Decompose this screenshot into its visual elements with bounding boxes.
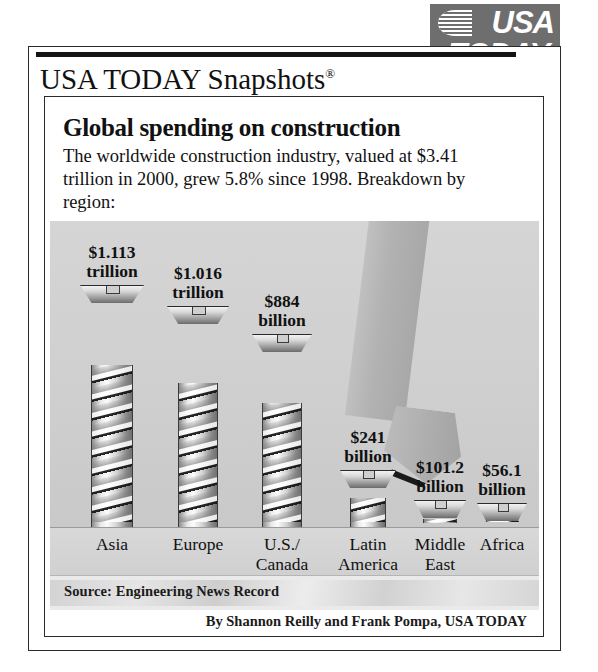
category-label: Asia: [65, 534, 159, 554]
screw-shank: [486, 521, 519, 522]
screw-threads: [424, 519, 456, 522]
category-axis: AsiaEuropeU.S./CanadaLatinAmericaMiddleE…: [50, 527, 539, 576]
snapshots-title-text: USA TODAY Snapshots: [40, 63, 325, 95]
chart-headline: Global spending on construction: [63, 113, 503, 142]
screw-icon: [80, 285, 144, 521]
screw-slot: [435, 501, 446, 509]
screw-icon: [167, 306, 229, 521]
source-band: Source: Engineering News Record: [50, 575, 539, 610]
screw-head: [340, 470, 396, 488]
screw-shank: [178, 383, 218, 527]
category-label: Africa: [462, 534, 542, 554]
screw-shank: [91, 365, 133, 527]
screw-shank: [262, 403, 301, 527]
snapshot-infographic: USA TODAY. USA TODAY Snapshots® Global s…: [0, 0, 598, 672]
category-label: U.S./Canada: [237, 534, 327, 574]
category-label: Europe: [152, 534, 244, 554]
plot-area: $1.113trillion$1.016trillion$884billion$…: [50, 221, 539, 527]
byline-text: By Shannon Reilly and Frank Pompa, USA T…: [45, 613, 527, 630]
chart-panel: Global spending on construction The worl…: [44, 96, 544, 637]
screw-slot: [277, 335, 290, 343]
registered-mark: ®: [325, 66, 335, 81]
logo-usa-text: USA: [430, 6, 560, 40]
screwdriver-icon: [345, 221, 445, 422]
screw-threads: [179, 383, 217, 522]
bar-value-label: $1.016trillion: [150, 264, 246, 302]
screw-head: [477, 503, 527, 521]
screw-icon: [252, 334, 312, 521]
screw-threads: [351, 498, 386, 522]
bar-value-label: $884billion: [235, 292, 329, 330]
screw-slot: [192, 307, 205, 315]
chart-subtext: The worldwide construction industry, val…: [63, 145, 483, 214]
bar-value-label: $56.1billion: [460, 461, 539, 499]
bar-value-label: $1.113trillion: [63, 243, 161, 281]
screw-slot: [106, 286, 120, 294]
screw-icon: [340, 470, 396, 521]
screw-threads: [263, 403, 300, 522]
screw-threads: [92, 365, 132, 522]
screw-head: [252, 334, 312, 352]
screw-slot: [363, 471, 375, 479]
screw-head: [167, 306, 229, 324]
screw-icon: [414, 500, 466, 521]
screw-slot: [498, 504, 509, 512]
screw-icon: [477, 503, 527, 521]
page-title: USA TODAY Snapshots®: [40, 56, 460, 92]
screw-shank: [423, 519, 457, 523]
screw-head: [414, 500, 466, 518]
screw-shank: [350, 498, 387, 527]
screw-head: [80, 285, 144, 303]
screw-threads: [487, 521, 518, 522]
source-text: Source: Engineering News Record: [64, 583, 279, 600]
